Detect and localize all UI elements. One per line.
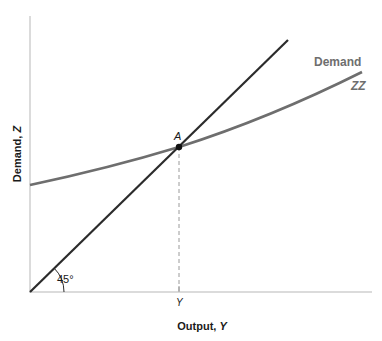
demand-label: Demand: [314, 55, 361, 69]
x-axis-title: Output, Y: [177, 320, 228, 332]
equilibrium-point-a: [176, 144, 182, 150]
y-axis-title: Demand, Z: [11, 125, 23, 183]
point-a-label: A: [173, 130, 181, 142]
angle-label: 45°: [57, 273, 74, 285]
line-45-degree: [30, 40, 288, 292]
y-tick-label: Y: [176, 297, 184, 308]
zz-label: ZZ: [350, 79, 366, 93]
keynesian-cross-chart: A 45° Demand ZZ Y Output, Y Demand, Z: [0, 0, 382, 341]
